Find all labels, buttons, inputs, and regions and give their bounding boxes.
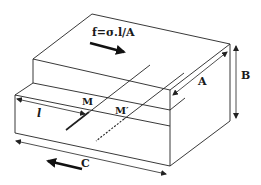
upper-shear-arrow [90, 43, 124, 52]
label-B: B [241, 70, 250, 81]
diagram-canvas: f=σ.l/A A B C l M M′ [0, 0, 261, 185]
dislocation-M-prime-segment [96, 119, 124, 141]
dislocation-M-segment [66, 112, 89, 130]
label-M-prime: M′ [115, 106, 129, 116]
label-l: l [37, 108, 41, 119]
label-C: C [81, 158, 90, 169]
dimension-C-arrow [16, 141, 166, 174]
force-label: f=σ.l/A [92, 27, 135, 38]
dimension-A-arrow [173, 52, 227, 95]
label-A: A [198, 76, 207, 87]
label-M: M [82, 97, 93, 107]
dimension-l-arrow [17, 99, 85, 114]
lower-shear-arrow [48, 161, 82, 169]
